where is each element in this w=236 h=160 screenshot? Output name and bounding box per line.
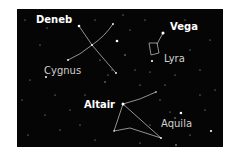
lyra-lines — [149, 33, 163, 55]
deneb-star — [78, 25, 81, 28]
deneb-label: Deneb — [36, 15, 72, 25]
vega-label: Vega — [170, 22, 198, 32]
cygnus-label: Cygnus — [44, 66, 81, 76]
altair-label: Altair — [84, 100, 115, 110]
aquila-lines — [114, 92, 161, 138]
lyra-label: Lyra — [164, 54, 185, 64]
aquila-label: Aquila — [161, 119, 192, 129]
altair-star — [122, 103, 125, 106]
vega-star — [162, 32, 165, 35]
